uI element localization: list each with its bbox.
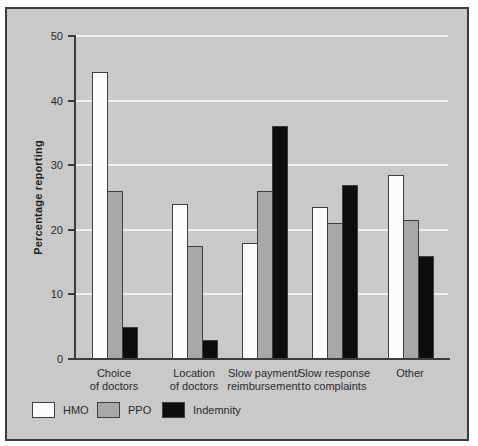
- legend-label-indemnity: Indemnity: [193, 403, 241, 417]
- y-tick-label-0: 0: [35, 352, 63, 366]
- legend-label-hmo: HMO: [63, 403, 89, 417]
- bar-ppo-2: [187, 246, 203, 359]
- page: Percentage reporting 01020304050Choiceof…: [0, 0, 478, 446]
- bar-indemnity-2: [202, 340, 218, 359]
- y-tick-20: [68, 229, 74, 231]
- bar-indemnity-4: [342, 185, 358, 359]
- legend-swatch-indemnity: [162, 402, 185, 418]
- bar-ppo-3: [257, 191, 273, 359]
- y-tick-label-50: 50: [35, 29, 63, 43]
- bar-hmo-1: [92, 72, 108, 359]
- bar-indemnity-3: [272, 126, 288, 359]
- bar-hmo-4: [312, 207, 328, 359]
- y-tick-30: [68, 164, 74, 166]
- bar-ppo-4: [327, 223, 343, 359]
- y-tick-label-40: 40: [35, 94, 63, 108]
- figure-panel: Percentage reporting 01020304050Choiceof…: [5, 7, 469, 441]
- bar-hmo-5: [388, 175, 404, 359]
- gridline-40: [76, 100, 448, 102]
- y-axis-title: Percentage reporting: [31, 98, 46, 298]
- legend-swatch-ppo: [97, 402, 120, 418]
- bar-hmo-2: [172, 204, 188, 359]
- y-tick-label-30: 30: [35, 158, 63, 172]
- bar-hmo-3: [242, 243, 258, 359]
- bar-indemnity-1: [122, 327, 138, 359]
- bar-ppo-1: [107, 191, 123, 359]
- bar-chart: Percentage reporting 01020304050Choiceof…: [7, 9, 467, 439]
- y-axis-line: [74, 35, 76, 360]
- y-tick-0: [68, 358, 74, 360]
- category-label-line: Other: [350, 367, 470, 380]
- y-tick-40: [68, 100, 74, 102]
- gridline-30: [76, 164, 448, 166]
- category-label-5: Other: [350, 367, 470, 380]
- bar-indemnity-5: [418, 256, 434, 359]
- y-tick-50: [68, 35, 74, 37]
- legend-label-ppo: PPO: [128, 403, 151, 417]
- y-tick-10: [68, 293, 74, 295]
- legend-swatch-hmo: [32, 402, 55, 418]
- gridline-50: [76, 35, 448, 37]
- x-axis-line: [74, 358, 450, 360]
- bar-ppo-5: [403, 220, 419, 359]
- category-label-line: to complaints: [274, 380, 394, 393]
- y-tick-label-20: 20: [35, 223, 63, 237]
- y-tick-label-10: 10: [35, 287, 63, 301]
